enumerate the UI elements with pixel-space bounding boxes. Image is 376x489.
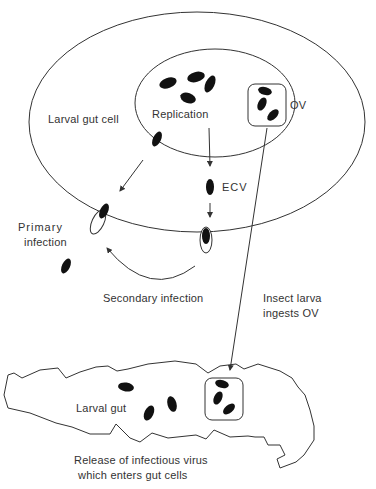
label-release-line1: Release of infectious virus [74,454,208,466]
ecv-virion [206,179,214,195]
label-replication: Replication [152,108,209,120]
label-ingests-line1: Insect larva [263,292,322,304]
label-ingests-line2: ingests OV [263,307,319,319]
label-larval-gut: Larval gut [76,402,126,414]
label-ecv: ECV [222,181,248,193]
gut-ov-virions [211,378,237,416]
label-secondary-infection: Secondary infection [103,292,203,304]
ingestion-arrow [230,128,267,370]
arrow-to-primary [120,160,143,191]
secondary-infection-arrow [107,248,195,279]
free-virion [59,257,73,275]
arrow-replication-to-ecv [209,128,210,166]
label-larval-gut-cell: Larval gut cell [48,113,119,125]
ov-virions [255,85,280,122]
label-release-line2: which enters gut cells [78,469,188,481]
label-ov: OV [290,99,306,111]
label-primary-infection-line2: infection [24,236,67,248]
gut-virions [117,381,178,422]
larval-gut-outline [4,361,314,468]
secondary-virion [202,228,210,244]
replicating-virions [158,70,218,106]
budding-virion [150,130,164,148]
label-primary-infection-line1: Primary [18,221,63,233]
